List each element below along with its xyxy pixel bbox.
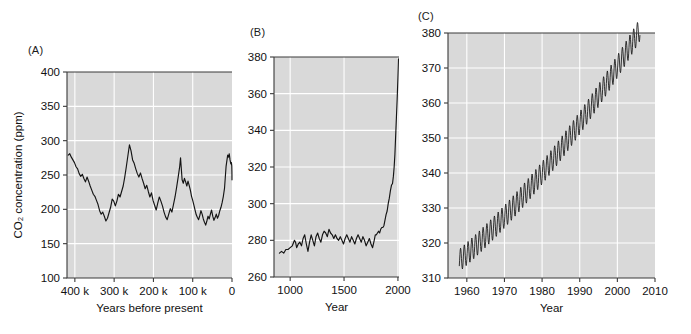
x-tick-label: 200 k — [139, 285, 167, 297]
y-tick-label: 300 — [41, 135, 60, 147]
y-tick-label: 320 — [422, 237, 441, 249]
x-tick-label: 300 k — [100, 285, 128, 297]
x-tick-label: 1970 — [492, 285, 518, 297]
x-tick-label: 1500 — [331, 284, 357, 296]
x-axis-title: Year — [540, 302, 563, 314]
y-tick-label: 260 — [248, 271, 267, 283]
y-tick-label: 360 — [422, 97, 441, 109]
y-tick-label: 340 — [248, 124, 267, 136]
x-axis-ticks: 400 k300 k200 k100 k0 — [61, 278, 235, 297]
y-axis-title: CO₂ concentration (ppm) — [12, 111, 24, 238]
panel-a-label: (A) — [28, 44, 43, 56]
y-tick-label: 380 — [248, 51, 267, 63]
y-tick-label: 330 — [422, 202, 441, 214]
y-tick-label: 370 — [422, 62, 441, 74]
y-axis-ticks: 260280300320340360380 — [248, 51, 274, 283]
panel-c-chart: 3103203303403503603703801960197019801990… — [410, 0, 691, 320]
x-tick-label: 2000 — [385, 284, 411, 296]
panel-b-label: (B) — [250, 26, 265, 38]
x-axis-title: Years before present — [96, 302, 203, 314]
x-axis-title: Year — [325, 301, 348, 313]
y-axis-ticks: 100150200250300350400 — [41, 66, 67, 284]
y-tick-label: 250 — [41, 169, 60, 181]
y-tick-label: 350 — [41, 100, 60, 112]
x-tick-label: 2000 — [605, 285, 631, 297]
y-tick-label: 100 — [41, 272, 60, 284]
y-axis-ticks: 310320330340350360370380 — [422, 27, 448, 284]
y-tick-label: 360 — [248, 88, 267, 100]
x-tick-label: 2010 — [642, 285, 668, 297]
x-axis-ticks: 100015002000 — [277, 277, 410, 296]
x-tick-label: 0 — [229, 285, 235, 297]
x-tick-label: 1990 — [567, 285, 593, 297]
y-tick-label: 200 — [41, 203, 60, 215]
x-axis-ticks: 196019701980199020002010 — [454, 278, 668, 297]
x-tick-label: 1000 — [277, 284, 303, 296]
panel-b: (B) 260280300320340360380100015002000Yea… — [240, 0, 425, 320]
x-tick-label: 100 k — [179, 285, 207, 297]
y-tick-label: 350 — [422, 132, 441, 144]
x-tick-label: 1960 — [454, 285, 480, 297]
panel-a: (A) 100150200250300350400400 k300 k200 k… — [0, 0, 250, 320]
y-tick-label: 310 — [422, 272, 441, 284]
y-tick-label: 150 — [41, 238, 60, 250]
panel-b-chart: 260280300320340360380100015002000Year — [240, 0, 425, 320]
y-tick-label: 300 — [248, 198, 267, 210]
y-tick-label: 280 — [248, 234, 267, 246]
panel-c-label: (C) — [418, 10, 434, 22]
co2-concentration-figure: (A) 100150200250300350400400 k300 k200 k… — [0, 0, 691, 334]
y-tick-label: 400 — [41, 66, 60, 78]
x-tick-label: 400 k — [61, 285, 89, 297]
y-tick-label: 320 — [248, 161, 267, 173]
panel-c: (C) 310320330340350360370380196019701980… — [410, 0, 691, 320]
y-tick-label: 340 — [422, 167, 441, 179]
y-tick-label: 380 — [422, 27, 441, 39]
x-tick-label: 1980 — [529, 285, 555, 297]
